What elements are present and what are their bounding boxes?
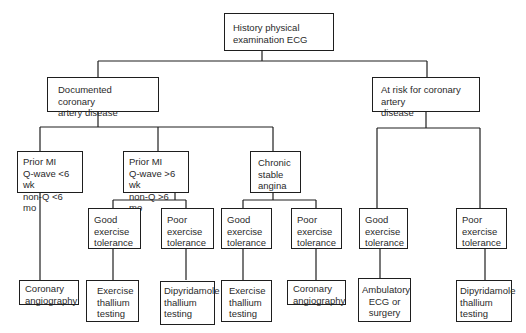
node-chronic-stable-angina: Chronic stable angina (250, 151, 301, 193)
node-result-exercise-thallium-old-mi: Exercise thallium testing (86, 280, 139, 322)
node-prior-mi-old: Prior MI Q-wave >6 wk non-Q >6 mo (123, 151, 189, 193)
node-prior-mi-recent: Prior MI Q-wave <6 wk non-Q <6 mo (17, 151, 83, 193)
node-result-coronary-angiography-angina: Coronary angiography (287, 280, 346, 305)
node-angina-poor-tolerance: Poor exercise tolerance (291, 208, 342, 249)
node-result-dipyridamole-thallium-old-mi: Dipyridamole thallium testing (160, 281, 215, 325)
node-documented-cad: Documented coronary artery disease (47, 77, 159, 112)
node-old-mi-poor-tolerance: Poor exercise tolerance (161, 208, 214, 249)
node-result-exercise-thallium-angina: Exercise thallium testing (221, 280, 272, 322)
node-result-coronary-angiography-recent-mi: Coronary angiography (19, 280, 79, 305)
node-root: History physical examination ECG (224, 13, 334, 51)
node-risk-good-tolerance: Good exercise tolerance (359, 208, 408, 249)
flowchart: History physical examination ECG Documen… (0, 0, 526, 333)
node-risk-poor-tolerance: Poor exercise tolerance (456, 208, 507, 249)
node-angina-good-tolerance: Good exercise tolerance (221, 208, 272, 249)
node-old-mi-good-tolerance: Good exercise tolerance (88, 208, 141, 249)
node-result-ambulatory-ecg-or-surgery: Ambulatory ECG or surgery (358, 278, 411, 322)
node-at-risk-cad: At risk for coronary artery disease (372, 77, 480, 112)
node-result-dipyridamole-thallium-risk: Dipyridamole thallium testing (456, 280, 512, 322)
